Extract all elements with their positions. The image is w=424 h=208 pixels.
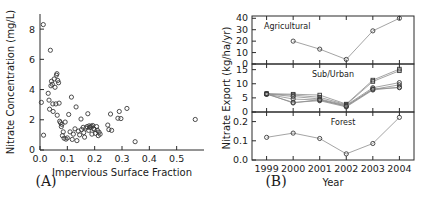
data-point [69,95,73,99]
data-point [75,139,79,143]
y-tick-label: 2 [29,114,35,125]
panel-a-ylabel: Nitrate Concentration (mg/L) [5,10,16,155]
y-tick-label: 5 [242,92,248,103]
x-tick-label: 2003 [361,163,385,174]
panel-a-xlabel: Impervious Surface Fraction [52,167,192,178]
panel-a-letter: (A) [35,173,56,189]
y-tick-label: 40 [236,12,248,23]
subplot-annotation: Sub/Urban [312,70,354,79]
y-tick-label: 10 [236,78,248,89]
data-point [74,105,78,109]
y-tick-label: 30 [236,24,248,35]
data-point [67,112,71,116]
data-point [78,133,82,137]
figure-container: 0.00.10.20.30.40.502468Impervious Surfac… [0,0,424,208]
y-tick-label: 0.2 [233,116,248,127]
x-tick-label: 0.5 [169,153,184,164]
data-point [117,109,121,113]
data-point [47,98,51,102]
y-tick-label: 0.0 [233,154,248,165]
subplot-annotation: Forest [331,118,356,127]
data-point [55,113,59,117]
subplot-sub-urban: 051015Sub/Urban [236,64,414,117]
data-point [70,137,74,141]
data-point [82,135,86,139]
data-point [82,131,86,135]
data-point [110,128,114,132]
scientific-figure: 0.00.10.20.30.40.502468Impervious Surfac… [0,0,424,208]
data-point [107,128,111,132]
y-tick-label: 0.1 [233,135,248,146]
data-point [86,112,90,116]
y-tick-label: 6 [29,54,35,65]
data-point [119,116,123,120]
series-line [267,87,400,107]
x-tick-label: 2002 [334,163,358,174]
data-point [48,48,52,52]
subplot-annotation: Agricultural [264,22,310,31]
x-tick-label: 2001 [308,163,332,174]
y-tick-label: 15 [236,64,248,75]
data-point [125,106,129,110]
panel-b-xlabel: Year [321,177,344,188]
panel-b-letter: (B) [265,173,286,189]
data-point [106,123,110,127]
data-point [41,133,45,137]
subplot-forest: 0.00.10.2Forest [233,112,414,165]
subplot-agricultural: 010203040Agricultural [236,12,414,69]
x-tick-label: 0.1 [60,153,75,164]
y-tick-label: 20 [236,35,248,46]
data-point [46,91,50,95]
panel-b-ylabel: Nitrate Export (kg/ha/yr) [221,27,232,150]
data-point [71,132,75,136]
x-tick-label: 0.4 [142,153,157,164]
x-tick-label: 0.2 [87,153,102,164]
y-tick-label: 8 [29,24,35,35]
panel-a-axes [40,14,204,150]
x-tick-label: 0.3 [114,153,129,164]
panel-a: 0.00.10.20.30.40.502468Impervious Surfac… [5,10,204,189]
data-point [108,112,112,116]
data-point [51,109,55,113]
y-tick-label: 0 [29,144,35,155]
panel-b: 010203040Agricultural051015Sub/Urban0.00… [221,12,414,189]
y-tick-label: 4 [29,84,35,95]
data-point [53,85,57,89]
data-point [79,117,83,121]
data-point [41,22,45,26]
data-point [63,120,67,124]
y-tick-label: 10 [236,47,248,58]
x-tick-label: 2004 [387,163,411,174]
data-point [193,117,197,121]
data-point [133,140,137,144]
